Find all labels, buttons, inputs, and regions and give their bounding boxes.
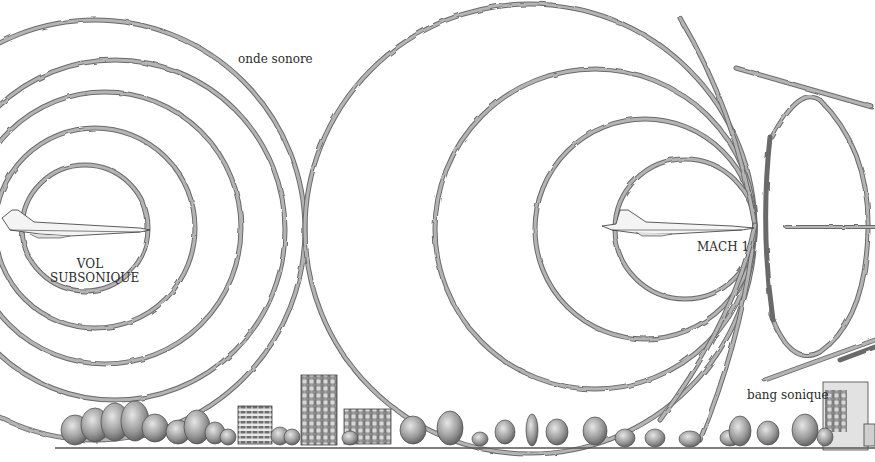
subsonic-label: VOL SUBSONIQUE <box>50 257 130 285</box>
sonic-boom-label: bang sonique <box>747 388 829 402</box>
concorde-icon <box>602 210 754 236</box>
mach1-label: MACH 1 <box>697 240 749 254</box>
subsonic-label-line1: VOL <box>50 257 130 271</box>
tree-line <box>61 401 833 447</box>
subsonic-label-line2: SUBSONIQUE <box>50 271 130 285</box>
sound-wave-label: onde sonore <box>238 52 313 66</box>
sonic-boom-illustration: onde sonore VOL SUBSONIQUE MACH 1 bang s… <box>0 0 875 462</box>
